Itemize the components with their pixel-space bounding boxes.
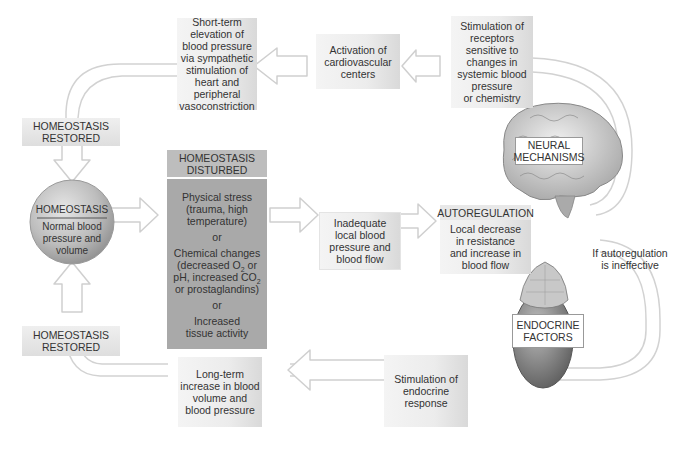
receptor-line1: Stimulation of xyxy=(460,20,524,32)
endocrine-stim-line2: endocrine xyxy=(403,385,449,397)
receptor-line7: or chemistry xyxy=(463,92,520,104)
receptor-line4: changes in xyxy=(467,56,518,68)
if-ineffective-label: If autoregulation is ineffective xyxy=(582,247,678,271)
autoreg-line3: and increase in xyxy=(450,247,521,259)
endocrine-stimulation: Stimulation of endocrine response xyxy=(384,355,468,427)
endocrine-line2: FACTORS xyxy=(523,331,572,343)
neural-line2: MECHANISMS xyxy=(513,151,584,163)
neural-line1: NEURAL xyxy=(528,139,571,151)
receptor-line5: systemic blood xyxy=(457,68,526,80)
receptor-line3: sensitive to xyxy=(466,44,519,56)
disturbed-causes: Physical stress (trauma, high temperatur… xyxy=(167,179,267,349)
long-term-line3: volume and xyxy=(193,392,247,404)
cause2-line4: or prostaglandins) xyxy=(175,283,259,295)
autoregulation-header: AUTOREGULATION xyxy=(440,205,531,220)
long-term-increase: Long-term increase in blood volume and b… xyxy=(178,357,262,427)
cause1-line3: temperature) xyxy=(187,215,247,227)
autoreg-line1: Local decrease xyxy=(450,223,521,235)
activation-line1: Activation of xyxy=(329,44,386,56)
inadequate-line3: pressure and xyxy=(329,241,390,253)
short-term-line5: stimulation of xyxy=(186,64,248,76)
long-term-line1: Long-term xyxy=(196,368,244,380)
or2: or xyxy=(212,299,221,311)
receptor-line2: receptors xyxy=(470,32,514,44)
endocrine-stim-line1: Stimulation of xyxy=(394,373,458,385)
short-term-line4: via sympathetic xyxy=(181,52,253,64)
long-term-line4: blood pressure xyxy=(185,404,254,416)
cause2-line1: Chemical changes xyxy=(174,247,260,259)
receptor-line6: pressure xyxy=(472,80,513,92)
autoreg-line2: in resistance xyxy=(456,235,515,247)
cause1-line1: Physical stress xyxy=(182,191,252,203)
restored-top-line2: RESTORED xyxy=(42,132,100,144)
inadequate-line1: Inadequate xyxy=(334,217,387,229)
short-term-elevation: Short-term elevation of blood pressure v… xyxy=(177,18,257,110)
inadequate-blood-flow: Inadequate local blood pressure and bloo… xyxy=(319,212,401,270)
short-term-line7: peripheral xyxy=(194,88,241,100)
homeostasis-body: Normal blood pressure and volume xyxy=(32,221,112,257)
neural-mechanisms-label: NEURAL MECHANISMS xyxy=(515,137,583,165)
endocrine-line1: ENDOCRINE xyxy=(516,319,579,331)
short-term-line6: heart and xyxy=(195,76,239,88)
restored-bottom-line2: RESTORED xyxy=(42,341,100,353)
homeostasis-restored-bottom: HOMEOSTASIS RESTORED xyxy=(22,326,120,356)
endocrine-factors-label: ENDOCRINE FACTORS xyxy=(512,314,584,348)
short-term-line1: Short-term xyxy=(192,16,242,28)
disturbed-header-line1: HOMEOSTASIS xyxy=(179,152,255,164)
homeostasis-header: HOMEOSTASIS xyxy=(28,204,116,216)
cardiovascular-activation: Activation of cardiovascular centers xyxy=(316,34,400,89)
cause3-line1: Increased xyxy=(194,315,240,327)
short-term-line8: vasoconstriction xyxy=(179,100,254,112)
cause1-line2: (trauma, high xyxy=(186,203,248,215)
cause2-line2: (decreased O2 or xyxy=(177,259,257,271)
receptor-stimulation: Stimulation of receptors sensitive to ch… xyxy=(451,16,533,108)
cause2-line3: pH, increased CO2 xyxy=(173,271,260,283)
or1: or xyxy=(212,231,221,243)
long-term-line2: increase in blood xyxy=(180,380,259,392)
disturbed-header-line2: DISTURBED xyxy=(187,164,248,176)
autoreg-line4: blood flow xyxy=(462,259,509,271)
inadequate-line4: blood flow xyxy=(336,253,383,265)
short-term-line3: blood pressure xyxy=(182,40,251,52)
endocrine-stim-line3: response xyxy=(404,397,447,409)
restored-top-line1: HOMEOSTASIS xyxy=(33,120,109,132)
homeostasis-restored-top: HOMEOSTASIS RESTORED xyxy=(22,118,120,146)
restored-bottom-line1: HOMEOSTASIS xyxy=(33,329,109,341)
activation-line3: centers xyxy=(341,68,375,80)
cause3-line2: tissue activity xyxy=(186,327,248,339)
disturbed-header: HOMEOSTASIS DISTURBED xyxy=(167,150,267,178)
activation-line2: cardiovascular xyxy=(324,56,392,68)
inadequate-line2: local blood xyxy=(335,229,385,241)
short-term-line2: elevation of xyxy=(190,28,244,40)
autoregulation-body: Local decrease in resistance and increas… xyxy=(440,220,531,274)
